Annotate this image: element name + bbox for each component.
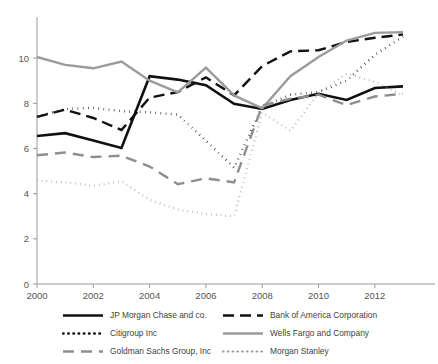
chart-axes <box>33 17 435 288</box>
y-tick-label: 10 <box>18 53 29 64</box>
x-tick-label: 2004 <box>139 290 160 301</box>
y-tick-label: 4 <box>24 188 29 199</box>
legend-item[interactable]: JP Morgan Chase and co. <box>62 306 222 324</box>
x-tick-label: 2010 <box>308 290 329 301</box>
legend-swatch-2 <box>62 328 104 339</box>
legend-swatch-1 <box>222 310 264 321</box>
legend-label: Citigroup Inc <box>110 328 157 339</box>
y-tick-label: 8 <box>24 98 29 109</box>
chart-legend: JP Morgan Chase and co.Bank of America C… <box>62 306 422 360</box>
series-line-3 <box>37 32 403 108</box>
x-tick-label: 2008 <box>252 290 273 301</box>
y-tick-label: 2 <box>24 233 29 244</box>
legend-swatch-0 <box>62 310 104 321</box>
legend-item[interactable]: Citigroup Inc <box>62 324 222 342</box>
y-tick-label: 0 <box>24 279 29 290</box>
legend-item[interactable]: Goldman Sachs Group, Inc <box>62 342 222 360</box>
legend-label: Morgan Stanley <box>270 346 329 357</box>
x-tick-label: 2012 <box>364 290 385 301</box>
legend-swatch-3 <box>222 328 264 339</box>
legend-label: Bank of America Corporation <box>270 310 377 321</box>
legend-label: Goldman Sachs Group, Inc <box>110 346 211 357</box>
series-line-2 <box>37 37 403 168</box>
legend-label: JP Morgan Chase and co. <box>110 310 207 321</box>
legend-item[interactable]: Bank of America Corporation <box>222 306 422 324</box>
legend-label: Wells Fargo and Company <box>270 328 369 339</box>
x-tick-label: 2006 <box>195 290 216 301</box>
line-chart: 02468102000200220042006200820102012 JP M… <box>0 0 438 364</box>
chart-series-group <box>37 32 403 216</box>
chart-tick-labels: 02468102000200220042006200820102012 <box>18 53 385 301</box>
legend-item[interactable]: Morgan Stanley <box>222 342 422 360</box>
y-tick-label: 6 <box>24 143 29 154</box>
legend-item[interactable]: Wells Fargo and Company <box>222 324 422 342</box>
legend-swatch-5 <box>222 346 264 357</box>
x-tick-label: 2002 <box>83 290 104 301</box>
x-tick-label: 2000 <box>26 290 47 301</box>
legend-swatch-4 <box>62 346 104 357</box>
